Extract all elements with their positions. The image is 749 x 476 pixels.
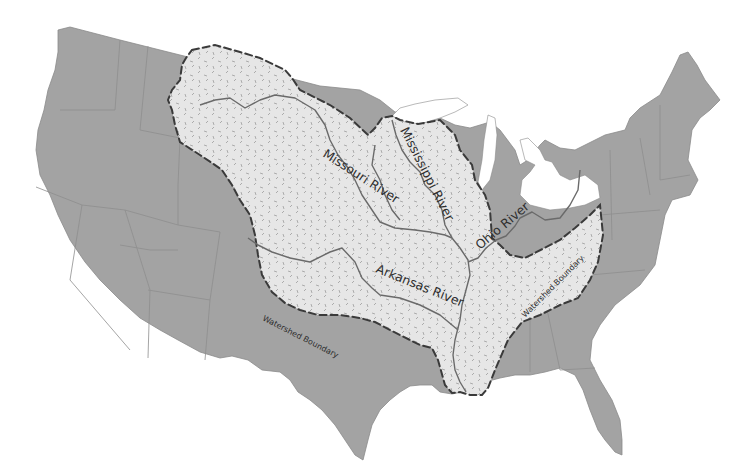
map-canvas: Missouri River Mississippi River Ohio Ri… (0, 0, 749, 476)
watershed-map: Missouri River Mississippi River Ohio Ri… (0, 0, 749, 476)
lake-superior (392, 98, 468, 124)
